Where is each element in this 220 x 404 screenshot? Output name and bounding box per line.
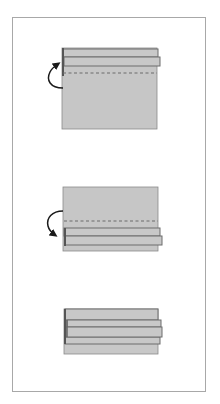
- folded-strip-1: [64, 228, 160, 236]
- strip-a: [65, 309, 158, 320]
- strip-c: [66, 327, 162, 337]
- fold-up-arrow-icon: [49, 64, 63, 88]
- strip-b: [67, 320, 161, 327]
- step-1: [49, 48, 160, 129]
- step-3-result: [64, 309, 162, 354]
- folded-strip-2: [65, 236, 162, 245]
- folding-diagram: [0, 0, 220, 404]
- folded-strip-1: [63, 49, 158, 57]
- strip-d: [65, 337, 160, 344]
- folded-strip-2: [64, 57, 160, 66]
- fold-down-arrow-icon: [48, 211, 63, 235]
- step-2: [48, 187, 162, 251]
